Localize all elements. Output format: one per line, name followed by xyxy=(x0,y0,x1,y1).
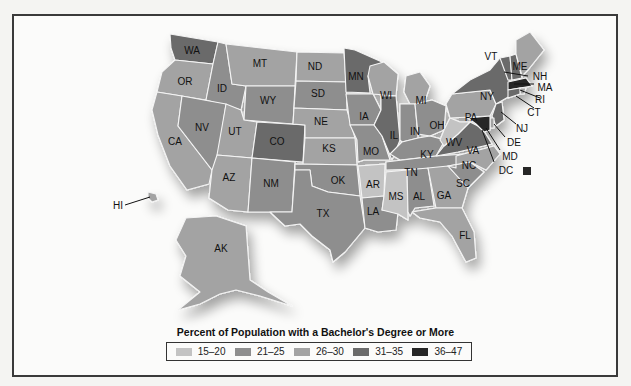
label-UT: UT xyxy=(228,126,241,137)
label-SD: SD xyxy=(311,88,325,99)
label-NV: NV xyxy=(195,122,209,133)
label-OK: OK xyxy=(331,175,346,186)
legend-label: 21–25 xyxy=(257,346,285,357)
state-DE[interactable] xyxy=(490,118,494,128)
legend-title: Percent of Population with a Bachelor's … xyxy=(0,326,631,338)
swatch-icon xyxy=(353,348,369,356)
swatch-icon xyxy=(235,348,251,356)
label-LA: LA xyxy=(367,206,380,217)
label-AZ: AZ xyxy=(223,172,236,183)
label-TX: TX xyxy=(317,208,330,219)
label-WV: WV xyxy=(446,137,462,148)
label-TN: TN xyxy=(404,167,417,178)
label-IA: IA xyxy=(359,111,369,122)
label-MA: MA xyxy=(538,82,553,93)
label-MD: MD xyxy=(502,151,518,162)
legend-item-21-25: 21–25 xyxy=(235,346,285,357)
label-WA: WA xyxy=(184,45,200,56)
label-RI: RI xyxy=(535,94,545,105)
label-OH: OH xyxy=(430,120,445,131)
label-NE: NE xyxy=(314,116,328,127)
label-DC: DC xyxy=(499,165,513,176)
label-NJ: NJ xyxy=(516,123,528,134)
swatch-icon xyxy=(412,348,428,356)
legend-label: 15–20 xyxy=(198,346,226,357)
label-CO: CO xyxy=(270,136,285,147)
label-PA: PA xyxy=(465,112,478,123)
label-IL: IL xyxy=(390,130,399,141)
label-KY: KY xyxy=(420,149,434,160)
label-AK: AK xyxy=(214,243,228,254)
label-KS: KS xyxy=(322,143,336,154)
swatch-icon xyxy=(176,348,192,356)
label-NH: NH xyxy=(533,71,547,82)
label-DE: DE xyxy=(507,137,521,148)
legend-item-31-35: 31–35 xyxy=(353,346,403,357)
label-SC: SC xyxy=(456,178,470,189)
label-IN: IN xyxy=(410,126,420,137)
legend-item-36-47: 36–47 xyxy=(412,346,462,357)
label-HI: HI xyxy=(113,200,123,211)
label-MT: MT xyxy=(253,58,267,69)
legend-label: 31–35 xyxy=(375,346,403,357)
swatch-icon xyxy=(294,348,310,356)
label-WY: WY xyxy=(260,95,276,106)
label-GA: GA xyxy=(437,190,452,201)
label-WI: WI xyxy=(380,90,392,101)
label-VA: VA xyxy=(467,145,480,156)
label-MN: MN xyxy=(348,71,364,82)
label-NM: NM xyxy=(263,178,279,189)
label-ID: ID xyxy=(217,83,227,94)
label-MS: MS xyxy=(389,191,404,202)
label-CT: CT xyxy=(527,107,540,118)
state-AZ[interactable] xyxy=(209,155,252,212)
legend-item-15-20: 15–20 xyxy=(176,346,226,357)
label-AL: AL xyxy=(413,191,426,202)
legend-label: 36–47 xyxy=(434,346,462,357)
label-OR: OR xyxy=(178,76,193,87)
label-NY: NY xyxy=(480,91,494,102)
label-FL: FL xyxy=(459,230,471,241)
label-CA: CA xyxy=(168,136,182,147)
label-ME: ME xyxy=(513,61,528,72)
label-ND: ND xyxy=(308,61,322,72)
label-AR: AR xyxy=(366,179,380,190)
label-MO: MO xyxy=(363,146,379,157)
label-MI: MI xyxy=(415,95,426,106)
state-AK[interactable] xyxy=(176,216,292,310)
state-CT[interactable] xyxy=(508,88,520,98)
dc-swatch-icon xyxy=(523,167,531,175)
label-NC: NC xyxy=(462,160,476,171)
legend-item-26-30: 26–30 xyxy=(294,346,344,357)
legend: 15–20 21–25 26–30 31–35 36–47 xyxy=(166,342,472,361)
label-VT: VT xyxy=(485,51,498,62)
legend-label: 26–30 xyxy=(316,346,344,357)
